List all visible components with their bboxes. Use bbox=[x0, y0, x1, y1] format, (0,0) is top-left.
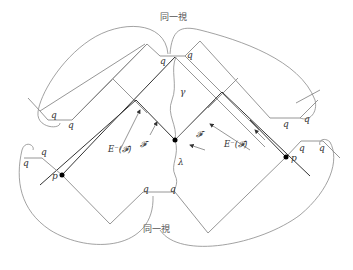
point-p-right bbox=[284, 155, 289, 160]
label-e-minus-f-left: E⁻(𝓕) bbox=[108, 145, 131, 154]
label-q: q bbox=[51, 111, 57, 120]
label-q: q bbox=[23, 159, 29, 168]
label-p-left: p bbox=[52, 172, 58, 181]
label-identify-bottom: 同一視 bbox=[143, 225, 170, 234]
identify-top-curve-left bbox=[38, 26, 168, 126]
label-q: q bbox=[283, 120, 289, 129]
label-q: q bbox=[187, 51, 193, 60]
diagram-lines bbox=[0, 0, 353, 270]
label-q: q bbox=[299, 144, 305, 153]
label-q: q bbox=[143, 185, 149, 194]
label-q: q bbox=[68, 121, 74, 130]
label-q: q bbox=[160, 57, 166, 66]
identify-bottom-curve-left bbox=[19, 144, 153, 244]
label-q: q bbox=[319, 144, 325, 153]
point-p-left bbox=[60, 173, 65, 178]
diagram-canvas: 同一視 同一視 γ λ p p q q q q q q q q q q q q … bbox=[0, 0, 353, 270]
gamma-curve bbox=[170, 57, 176, 140]
upper-v-left bbox=[100, 57, 175, 135]
label-q: q bbox=[170, 185, 176, 194]
label-identify-top: 同一視 bbox=[160, 13, 187, 22]
label-gamma: γ bbox=[180, 88, 185, 97]
label-q: q bbox=[41, 148, 47, 157]
label-f-right: 𝓕 bbox=[196, 130, 202, 139]
label-q: q bbox=[304, 115, 310, 124]
lower-right-frame bbox=[168, 141, 340, 233]
label-e-minus-f-right: E⁻(𝓕) bbox=[224, 140, 247, 149]
label-lambda: λ bbox=[178, 158, 184, 167]
center-point bbox=[173, 138, 178, 143]
right-upper-frame bbox=[177, 41, 285, 118]
label-f-left: 𝓕 bbox=[140, 140, 146, 149]
label-p-right: p bbox=[291, 154, 297, 163]
